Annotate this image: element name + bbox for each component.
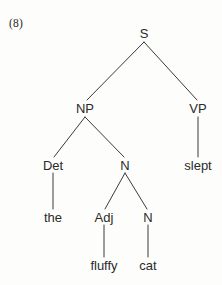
- tree-edge-np-to-n1: [85, 117, 124, 157]
- tree-node-n1: N: [120, 159, 129, 172]
- tree-node-vp: VP: [189, 102, 206, 115]
- tree-node-adj: Adj: [95, 211, 114, 224]
- tree-node-det: Det: [43, 159, 63, 172]
- tree-edge-np-to-det: [54, 117, 85, 157]
- tree-edge-n1-to-n2: [125, 173, 147, 209]
- tree-node-n2: N: [143, 211, 152, 224]
- syntax-tree-figure: (8) SNPVPDetNslepttheAdjNfluffycat: [0, 0, 222, 285]
- tree-edge-s-to-np: [87, 42, 144, 100]
- tree-node-cat: cat: [139, 259, 156, 272]
- tree-node-slept: slept: [184, 159, 211, 172]
- tree-edges: [0, 0, 222, 285]
- tree-edge-n1-to-adj: [105, 173, 125, 209]
- tree-node-fluffy: fluffy: [90, 259, 117, 272]
- tree-node-np: NP: [76, 102, 94, 115]
- tree-edge-s-to-vp: [144, 42, 197, 100]
- tree-node-s: S: [140, 27, 149, 40]
- tree-node-the: the: [44, 211, 62, 224]
